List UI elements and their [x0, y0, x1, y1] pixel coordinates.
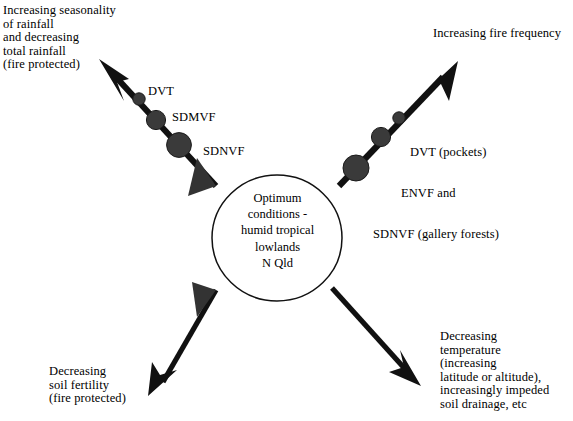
axis-lower-right	[332, 288, 421, 386]
node-sdnvf-right	[343, 155, 369, 181]
label-bottom-right: Decreasing temperature (increasing latit…	[440, 330, 549, 412]
label-node-envf: ENVF and	[373, 187, 499, 201]
label-node-sdnvf-right: SDNVF (gallery forests)	[373, 228, 499, 242]
axis-lower-right-shaft	[332, 288, 406, 370]
label-top-right: Increasing fire frequency	[433, 27, 561, 41]
axis-lower-left	[148, 282, 216, 396]
label-node-dvt-left: DVT	[148, 85, 174, 99]
label-node-dvt-right: DVT (pockets)	[373, 146, 499, 160]
node-sdnvf-left	[167, 133, 192, 158]
label-right-node-stack: DVT (pockets) ENVF and SDNVF (gallery fo…	[373, 119, 499, 255]
label-node-sdnvf-left: SDNVF	[203, 145, 245, 159]
node-dvt-left	[133, 93, 145, 105]
axis-lower-left-shaft	[163, 290, 216, 382]
label-top-left: Increasing seasonality of rainfall and d…	[3, 4, 116, 72]
axis-upper-right-arrowhead	[429, 61, 458, 101]
label-bottom-left: Decreasing soil fertility (fire protecte…	[49, 365, 126, 406]
label-node-sdmvf: SDMVF	[172, 111, 216, 125]
axis-upper-left	[99, 59, 216, 196]
label-center: Optimum conditions - humid tropical lowl…	[212, 190, 343, 271]
node-sdmvf	[146, 110, 165, 129]
